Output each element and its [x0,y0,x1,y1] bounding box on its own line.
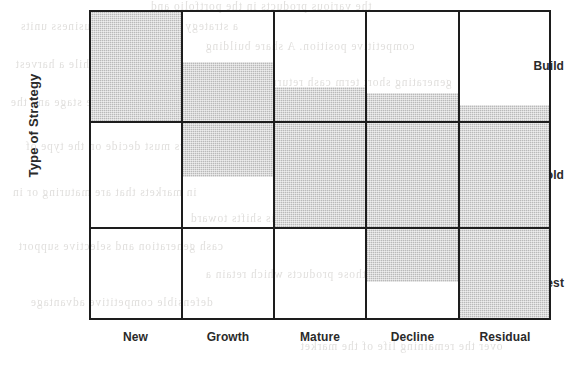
plot-area [89,10,551,320]
x-tick-new: New [89,330,182,344]
grid-vline-1 [181,12,183,318]
x-tick-mature: Mature [274,330,366,344]
grid-hline-hold-harvest [91,227,549,229]
band-growth [182,62,274,177]
strategy-lifecycle-matrix-figure: Type of Strategy Build Hold Harvest New … [0,0,572,376]
plot-inner [91,12,549,318]
band-mature [274,87,366,228]
grid-hline-build-hold [91,121,549,123]
y-axis-title: Type of Strategy [26,41,41,211]
x-tick-residual: Residual [459,330,551,344]
grid-vline-4 [458,12,460,318]
x-tick-decline: Decline [366,330,459,344]
grid-vline-3 [365,12,367,318]
band-residual [459,105,549,318]
band-new [91,12,182,122]
x-tick-growth: Growth [182,330,274,344]
grid-vline-2 [273,12,275,318]
